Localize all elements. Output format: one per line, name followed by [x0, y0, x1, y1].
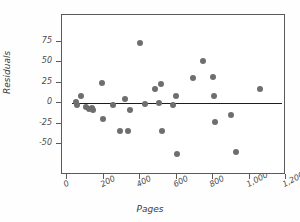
data-point: [173, 93, 179, 99]
data-point: [174, 151, 180, 157]
data-point: [200, 58, 206, 64]
data-point: [100, 116, 106, 122]
data-point: [142, 101, 148, 107]
data-point: [159, 128, 165, 134]
data-point: [110, 102, 116, 108]
data-point: [170, 102, 176, 108]
data-point: [122, 96, 128, 102]
data-point: [99, 80, 105, 86]
data-point: [127, 107, 133, 113]
data-point: [158, 81, 164, 87]
y-tick-label: 50: [42, 56, 52, 65]
y-tick-label: 0: [47, 97, 52, 106]
data-point: [210, 74, 216, 80]
x-tick-label: 400: [135, 174, 153, 189]
data-point: [137, 40, 143, 46]
y-tick-label: -25: [39, 118, 52, 127]
x-axis-title: Pages: [0, 204, 300, 214]
zero-reference-line: [72, 103, 282, 104]
x-tick-label: 200: [99, 174, 117, 189]
data-point: [74, 102, 80, 108]
data-point: [90, 107, 96, 113]
y-tick-label: 75: [42, 36, 52, 45]
data-point: [78, 93, 84, 99]
data-point: [117, 128, 123, 134]
x-tick-label: 600: [172, 174, 190, 189]
x-tick-label: 800: [208, 174, 226, 189]
data-point: [125, 128, 131, 134]
data-point: [228, 112, 234, 118]
data-point: [257, 86, 263, 92]
data-point: [190, 75, 196, 81]
y-tick-label: 25: [42, 77, 52, 86]
data-point: [156, 100, 162, 106]
residual-plot-figure: Residuals 7550250-25-50 02004006008001,0…: [0, 0, 300, 222]
data-point: [212, 119, 218, 125]
y-tick-label: -50: [39, 138, 52, 147]
data-point: [211, 93, 217, 99]
plot-area: [61, 14, 285, 174]
data-point: [152, 86, 158, 92]
y-axis-title: Residuals: [2, 51, 12, 94]
data-point: [233, 149, 239, 155]
x-tick-label: 0: [62, 179, 71, 189]
